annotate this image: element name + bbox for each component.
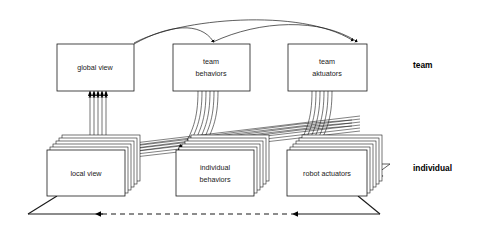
box-local-view-label: local view [70, 169, 102, 178]
stack-robot-actuators: robot actuators [287, 135, 382, 196]
box-team-behaviors-label-1: team [203, 57, 219, 66]
global-view-top-arcs [134, 20, 356, 44]
architecture-diagram: local view individual behaviors robot ac… [0, 0, 479, 238]
box-team-behaviors-group: team behaviors [173, 44, 250, 91]
environment-feedback-loop [28, 196, 380, 214]
box-team-aktuators-group: team aktuators [288, 44, 367, 91]
box-global-view-group: global view [57, 44, 134, 91]
stack-local-view: local view [47, 135, 140, 196]
tier-label-team: team [413, 60, 433, 70]
box-individual-behaviors-label-1: individual [200, 163, 230, 172]
box-robot-actuators-label: robot actuators [303, 169, 351, 178]
box-team-behaviors-label-2: behaviors [195, 69, 227, 78]
box-individual-behaviors [176, 150, 254, 196]
tier-label-individual: individual [413, 163, 452, 173]
box-team-aktuators [288, 44, 367, 91]
stack-individual-behaviors: individual behaviors [176, 135, 269, 196]
box-team-aktuators-label-1: team [319, 57, 335, 66]
box-global-view-label: global view [77, 63, 113, 72]
box-team-aktuators-label-2: aktuators [312, 69, 342, 78]
box-individual-behaviors-label-2: behaviors [199, 175, 231, 184]
box-team-behaviors [173, 44, 250, 91]
diagram-canvas: local view individual behaviors robot ac… [0, 0, 479, 238]
